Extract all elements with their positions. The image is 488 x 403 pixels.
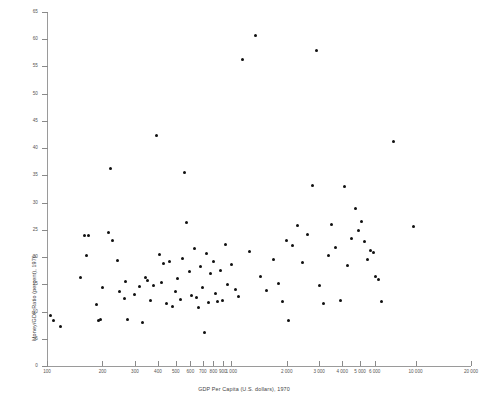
- data-point: [318, 284, 321, 287]
- x-tick-label: 600: [187, 369, 195, 374]
- x-tick-label: 2 000: [281, 369, 293, 374]
- x-axis-line: [47, 366, 471, 367]
- data-point: [214, 292, 217, 295]
- data-point: [343, 185, 346, 188]
- x-tick-label: 10 000: [408, 369, 422, 374]
- x-tick-label: 200: [99, 369, 107, 374]
- data-point: [315, 49, 318, 52]
- data-point: [224, 243, 227, 246]
- data-point: [95, 303, 98, 306]
- data-point: [357, 229, 360, 232]
- x-tick-label: 700: [199, 369, 207, 374]
- data-point: [101, 286, 104, 289]
- y-tick-label: 60: [6, 36, 38, 41]
- data-point: [203, 331, 206, 334]
- data-point: [59, 325, 62, 328]
- scatter-plot-figure: 05101520253035404550556065 1002003004005…: [0, 0, 488, 403]
- x-tick-label: 100: [43, 369, 51, 374]
- data-point: [179, 298, 182, 301]
- data-point: [126, 318, 129, 321]
- data-point: [248, 250, 251, 253]
- x-tick-label: 6 000: [369, 369, 381, 374]
- data-point: [277, 282, 280, 285]
- data-point: [116, 259, 119, 262]
- y-tick-label: 50: [6, 91, 38, 96]
- data-point: [188, 270, 191, 273]
- plot-area: [48, 12, 470, 366]
- x-tick-label: 500: [172, 369, 180, 374]
- y-axis-title: Money/GDP Ratio (percent), 1970: [31, 218, 37, 378]
- x-axis-title: GDP Per Capita (U.S. dollars), 1970: [0, 386, 488, 392]
- x-tick-label: 4 000: [336, 369, 348, 374]
- data-point: [234, 288, 237, 291]
- data-point: [230, 263, 233, 266]
- data-point: [287, 319, 290, 322]
- data-point: [107, 231, 110, 234]
- x-tick-label: 300: [131, 369, 139, 374]
- data-point: [174, 290, 177, 293]
- data-point: [123, 297, 126, 300]
- x-tick-label: 3 000: [313, 369, 325, 374]
- data-point: [79, 276, 82, 279]
- data-point: [181, 257, 184, 260]
- x-tick-label: 800: [210, 369, 218, 374]
- data-point: [360, 220, 363, 223]
- data-point: [412, 225, 415, 228]
- data-point: [281, 300, 284, 303]
- y-axis-title-container: Money/GDP Ratio (percent), 1970: [14, 120, 28, 280]
- data-point: [306, 233, 309, 236]
- x-tick-label: 20 000: [464, 369, 478, 374]
- data-point: [380, 300, 383, 303]
- data-point: [339, 299, 342, 302]
- data-point: [322, 302, 325, 305]
- data-point: [158, 253, 161, 256]
- x-tick: [471, 361, 472, 366]
- data-point: [219, 269, 222, 272]
- data-point: [330, 223, 333, 226]
- y-tick: [42, 366, 48, 367]
- data-point: [85, 254, 88, 257]
- data-point: [327, 254, 330, 257]
- y-tick-label: 55: [6, 63, 38, 68]
- y-tick-label: 65: [6, 9, 38, 14]
- data-point: [377, 278, 380, 281]
- data-point: [272, 258, 275, 261]
- data-point: [354, 207, 357, 210]
- data-point: [195, 296, 198, 299]
- data-point: [311, 184, 314, 187]
- x-tick-label: 400: [154, 369, 162, 374]
- data-point: [162, 262, 165, 265]
- data-point: [190, 294, 193, 297]
- data-point: [168, 260, 171, 263]
- data-point: [52, 319, 55, 322]
- x-tick-label: 5 000: [354, 369, 366, 374]
- data-point: [83, 234, 86, 237]
- data-point: [197, 306, 200, 309]
- x-tick-label: 1 000: [226, 369, 238, 374]
